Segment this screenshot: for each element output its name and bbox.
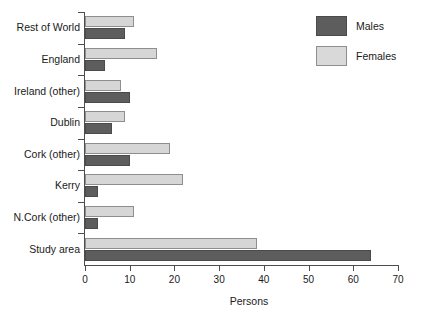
x-axis-tick xyxy=(85,265,86,271)
category-label: England xyxy=(0,54,80,65)
x-axis-tick xyxy=(398,265,399,271)
y-axis-tick xyxy=(78,44,85,45)
legend-label: Females xyxy=(356,50,396,62)
bar-males xyxy=(85,155,130,166)
x-axis-tick-label: 20 xyxy=(169,274,180,285)
bar-females xyxy=(85,48,157,59)
category-label: Cork (other) xyxy=(0,149,80,160)
bar-males xyxy=(85,123,112,134)
x-axis-tick-label: 0 xyxy=(82,274,88,285)
bar-females xyxy=(85,238,257,249)
legend-swatch-males xyxy=(316,16,347,36)
category-label: Kerry xyxy=(0,180,80,191)
category-label: Dublin xyxy=(0,117,80,128)
x-axis-tick-label: 70 xyxy=(392,274,403,285)
bar-females xyxy=(85,111,125,122)
bar-females xyxy=(85,174,183,185)
y-axis-tick xyxy=(78,202,85,203)
x-axis-tick-label: 60 xyxy=(348,274,359,285)
x-axis-tick-label: 30 xyxy=(214,274,225,285)
bar-females xyxy=(85,143,170,154)
bar-males xyxy=(85,250,371,261)
x-axis-tick xyxy=(264,265,265,271)
category-label: Rest of World xyxy=(0,22,80,33)
bar-males xyxy=(85,60,105,71)
x-axis-tick xyxy=(353,265,354,271)
y-axis-tick xyxy=(78,170,85,171)
y-axis-tick xyxy=(78,139,85,140)
bar-males xyxy=(85,186,98,197)
y-axis-tick xyxy=(78,75,85,76)
bar-males xyxy=(85,92,130,103)
category-label: Study area xyxy=(0,244,80,255)
x-axis-tick xyxy=(219,265,220,271)
x-axis-tick xyxy=(309,265,310,271)
y-axis-tick xyxy=(78,107,85,108)
x-axis-tick-label: 50 xyxy=(303,274,314,285)
y-axis-tick xyxy=(78,12,85,13)
bar-males xyxy=(85,218,98,229)
x-axis-tick xyxy=(130,265,131,271)
bar-chart: Rest of WorldEnglandIreland (other)Dubli… xyxy=(0,0,438,323)
x-axis-tick-label: 40 xyxy=(258,274,269,285)
legend-label: Males xyxy=(356,20,384,32)
x-axis-tick-label: 10 xyxy=(124,274,135,285)
x-axis-tick xyxy=(174,265,175,271)
y-axis-tick xyxy=(78,233,85,234)
legend-item-females: Females xyxy=(316,46,396,66)
x-axis-title-text: Persons xyxy=(230,295,269,307)
legend-swatch-females xyxy=(316,46,347,66)
category-label: N.Cork (other) xyxy=(0,212,80,223)
x-axis-title: Persons xyxy=(0,295,438,307)
category-label: Ireland (other) xyxy=(0,86,80,97)
bar-females xyxy=(85,16,134,27)
bar-females xyxy=(85,80,121,91)
legend-item-males: Males xyxy=(316,16,384,36)
x-axis-line xyxy=(84,265,398,266)
category-axis-labels: Rest of WorldEnglandIreland (other)Dubli… xyxy=(0,12,80,265)
bar-females xyxy=(85,206,134,217)
bar-males xyxy=(85,28,125,39)
